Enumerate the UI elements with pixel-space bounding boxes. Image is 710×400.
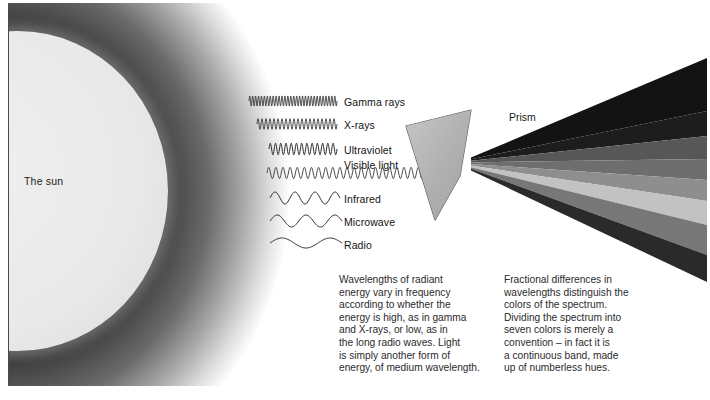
wave-microwave bbox=[270, 215, 342, 227]
wave-gamma-rays bbox=[249, 96, 337, 106]
caption-left: Wavelengths of radiant energy vary in fr… bbox=[339, 274, 499, 375]
wave-x-rays bbox=[257, 119, 337, 130]
caption-right: Fractional differences in wavelengths di… bbox=[504, 274, 664, 375]
prism-label: Prism bbox=[509, 111, 536, 123]
wave-ultraviolet bbox=[269, 143, 337, 154]
prism-shape bbox=[398, 108, 498, 223]
illustration-root: The sun Prism Wavelengths of radiant ene… bbox=[0, 0, 710, 400]
wave-infrared bbox=[270, 192, 340, 204]
illustration-plate: The sun Prism Wavelengths of radiant ene… bbox=[8, 3, 707, 386]
wave-radio bbox=[270, 238, 342, 248]
